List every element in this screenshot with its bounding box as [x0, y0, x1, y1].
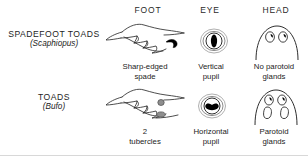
- column-header-head: HEAD: [246, 5, 306, 15]
- caption-two-tubercles: 2 tubercles: [104, 127, 186, 146]
- caption-line-2: spade: [104, 72, 186, 82]
- right-parotoid-gland: [281, 107, 289, 119]
- right-eye-pupil: [282, 97, 284, 101]
- caption-horizontal-pupil: Horizontal pupil: [182, 127, 240, 146]
- row-name-spadefoot: SPADEFOOT TOADS: [0, 29, 108, 39]
- horizontal-pupil-eye-illustration: [190, 87, 234, 125]
- left-eye-outline: [266, 32, 275, 42]
- head-outline: [256, 26, 298, 60]
- right-eye-outline: [278, 95, 287, 105]
- column-header-eye: EYE: [184, 5, 236, 15]
- caption-parotoid-glands: Parotoid glands: [242, 127, 306, 146]
- caption-line-1: Parotoid: [242, 127, 306, 137]
- row-name-toads: TOADS: [0, 92, 108, 102]
- caption-line-1: No parotoid: [240, 62, 308, 72]
- left-parotoid-gland: [264, 107, 272, 119]
- toad-foot-illustration: [104, 85, 186, 127]
- caption-line-2: pupil: [186, 72, 236, 82]
- left-eye-pupil: [269, 97, 271, 101]
- head-without-parotoid-glands-illustration: [250, 20, 304, 62]
- row-label-toads: TOADS (Bufo): [0, 92, 108, 112]
- row-genus-scaphiopus: (Scaphiopus): [0, 39, 108, 49]
- page-bottom-rule: [0, 155, 308, 156]
- head-outline: [255, 90, 297, 125]
- caption-no-parotoid-glands: No parotoid glands: [240, 62, 308, 81]
- caption-line-1: Vertical: [186, 62, 236, 72]
- row-label-spadefoot-toads: SPADEFOOT TOADS (Scaphiopus): [0, 29, 108, 49]
- row-genus-bufo: (Bufo): [0, 102, 108, 112]
- head-with-parotoid-glands-illustration: [248, 85, 304, 127]
- vertical-pupil-shape: [211, 35, 217, 48]
- caption-line-1: 2: [104, 127, 186, 137]
- right-eye-outline: [279, 32, 288, 42]
- vertical-pupil-eye-illustration: [192, 22, 236, 60]
- caption-line-2: glands: [240, 72, 308, 82]
- caption-line-1: Sharp-edged: [104, 62, 186, 72]
- caption-line-1: Horizontal: [182, 127, 240, 137]
- spadefoot-foot-illustration: [104, 20, 186, 62]
- sharp-edged-spade-shape: [166, 39, 177, 47]
- caption-vertical-pupil: Vertical pupil: [186, 62, 236, 81]
- horizontal-pupil-shape: [205, 104, 218, 111]
- caption-line-2: tubercles: [104, 137, 186, 147]
- left-eye-pupil: [271, 34, 273, 38]
- tubercle-lower: [157, 112, 165, 117]
- column-header-foot: FOOT: [114, 5, 182, 15]
- right-eye-pupil: [284, 34, 286, 38]
- caption-line-2: pupil: [182, 137, 240, 147]
- caption-line-2: glands: [242, 137, 306, 147]
- tubercle-upper: [158, 100, 164, 106]
- figure-canvas: FOOT EYE HEAD SPADEFOOT TOADS (Scaphiopu…: [0, 0, 308, 157]
- caption-sharp-edged-spade: Sharp-edged spade: [104, 62, 186, 81]
- left-eye-outline: [265, 95, 274, 105]
